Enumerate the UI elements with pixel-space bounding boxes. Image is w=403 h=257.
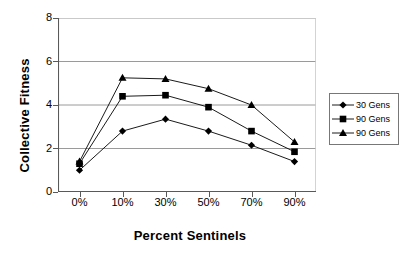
y-tick-mark xyxy=(53,18,58,19)
y-tick-label: 0 xyxy=(30,185,52,197)
x-tick-mark xyxy=(295,192,296,197)
x-tick-mark xyxy=(166,192,167,197)
x-tick-label: 90% xyxy=(273,196,317,208)
data-point-square xyxy=(162,92,169,99)
data-point-diamond xyxy=(248,142,255,149)
plot-svg xyxy=(58,18,316,192)
data-point-square xyxy=(248,128,255,135)
diamond-marker-icon xyxy=(332,98,354,112)
legend-item-2: 90 Gens xyxy=(332,112,395,126)
x-tick-mark xyxy=(123,192,124,197)
data-point-square xyxy=(119,93,126,100)
x-axis-title: Percent Sentinels xyxy=(60,228,320,243)
x-tick-mark xyxy=(80,192,81,197)
y-tick-label: 6 xyxy=(30,55,52,67)
series-1 xyxy=(76,116,298,174)
legend-item-3: 90 Gens xyxy=(332,126,395,140)
data-point-square xyxy=(205,104,212,111)
y-tick-label: 8 xyxy=(30,11,52,23)
chart-figure: Collective Fitness Percent Sentinels 024… xyxy=(0,0,403,257)
series-line xyxy=(80,119,295,170)
x-tick-label: 50% xyxy=(187,196,231,208)
y-tick-label: 2 xyxy=(30,142,52,154)
square-marker-icon xyxy=(332,112,354,126)
legend-item-1: 30 Gens xyxy=(332,98,395,112)
legend-label: 30 Gens xyxy=(354,100,390,110)
y-tick-mark xyxy=(53,61,58,62)
x-tick-label: 10% xyxy=(101,196,145,208)
legend-label: 90 Gens xyxy=(354,114,390,124)
data-point-triangle xyxy=(248,101,256,108)
data-point-square xyxy=(291,148,298,155)
x-tick-label: 0% xyxy=(58,196,102,208)
triangle-marker-icon xyxy=(332,126,354,140)
data-point-diamond xyxy=(205,128,212,135)
x-tick-mark xyxy=(209,192,210,197)
plot-area xyxy=(58,18,316,192)
y-tick-mark xyxy=(53,105,58,106)
chart-legend: 30 Gens90 Gens90 Gens xyxy=(329,93,399,145)
x-tick-label: 30% xyxy=(144,196,188,208)
data-point-diamond xyxy=(291,158,298,165)
y-tick-mark xyxy=(53,148,58,149)
x-tick-label: 70% xyxy=(230,196,274,208)
legend-label: 90 Gens xyxy=(354,128,390,138)
series-line xyxy=(80,95,295,164)
y-tick-mark xyxy=(53,192,58,193)
series-3 xyxy=(76,74,299,165)
data-point-diamond xyxy=(162,116,169,123)
data-point-triangle xyxy=(119,74,127,81)
y-tick-label: 4 xyxy=(30,98,52,110)
x-tick-mark xyxy=(252,192,253,197)
